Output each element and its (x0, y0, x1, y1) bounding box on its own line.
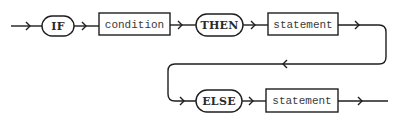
if-then-else-syntax-diagram: IF condition THEN statement ELSE stateme… (0, 0, 398, 123)
nonterminal-condition-label: condition (105, 19, 164, 31)
terminal-else-label: ELSE (202, 95, 236, 108)
nonterminal-statement-1: statement (268, 13, 338, 35)
nonterminal-statement-2-label: statement (272, 95, 331, 107)
terminal-then: THEN (196, 14, 243, 36)
nonterminal-statement-1-label: statement (273, 19, 332, 31)
terminal-if: IF (42, 16, 74, 36)
terminal-else: ELSE (196, 90, 242, 112)
terminal-if-label: IF (51, 20, 65, 33)
terminal-then-label: THEN (200, 19, 238, 32)
nonterminal-statement-2: statement (266, 89, 338, 112)
nonterminal-condition: condition (99, 13, 170, 35)
